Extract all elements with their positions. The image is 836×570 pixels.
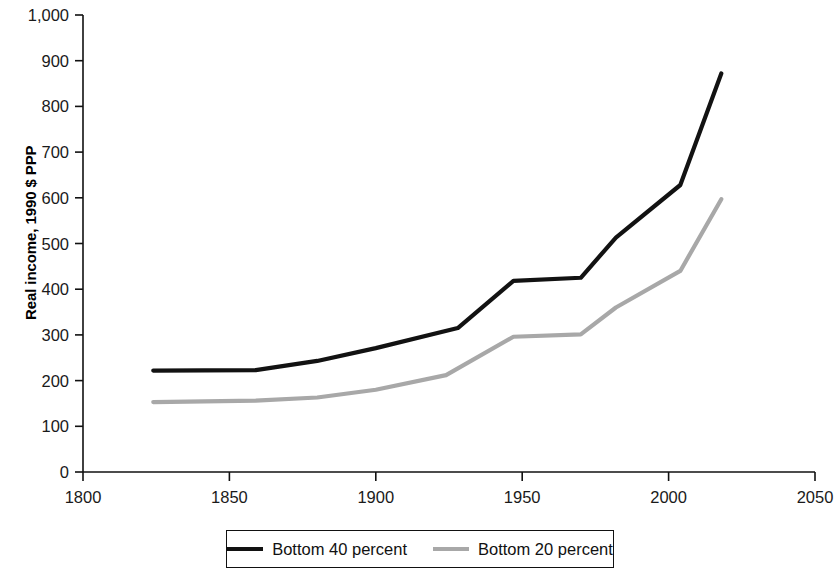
y-tick-label: 1,000 [0, 6, 69, 25]
x-tick-label: 1950 [504, 488, 541, 507]
chart-legend: Bottom 40 percentBottom 20 percent [226, 530, 614, 568]
y-tick-label: 900 [0, 51, 69, 70]
legend-label: Bottom 40 percent [272, 540, 407, 559]
x-tick-label: 2000 [650, 488, 687, 507]
y-tick-label: 300 [0, 325, 69, 344]
x-tick-label: 1800 [65, 488, 102, 507]
plot-area [0, 0, 836, 570]
legend-label: Bottom 20 percent [478, 540, 613, 559]
x-tick-label: 1900 [357, 488, 394, 507]
y-tick-label: 500 [0, 234, 69, 253]
y-tick-label: 800 [0, 97, 69, 116]
y-tick-label: 100 [0, 417, 69, 436]
series-line-0 [153, 74, 721, 371]
y-tick-label: 0 [0, 463, 69, 482]
x-tick-label: 2050 [797, 488, 834, 507]
chart-figure: Real income, 1990 $ PPP 0100200300400500… [0, 0, 836, 570]
legend-entry: Bottom 40 percent [227, 540, 407, 559]
y-tick-label: 700 [0, 143, 69, 162]
y-tick-label: 200 [0, 371, 69, 390]
y-tick-label: 600 [0, 188, 69, 207]
legend-line-swatch [227, 547, 263, 551]
legend-entry: Bottom 20 percent [433, 540, 613, 559]
legend-line-swatch [433, 547, 469, 551]
y-tick-label: 400 [0, 280, 69, 299]
x-tick-label: 1850 [211, 488, 248, 507]
